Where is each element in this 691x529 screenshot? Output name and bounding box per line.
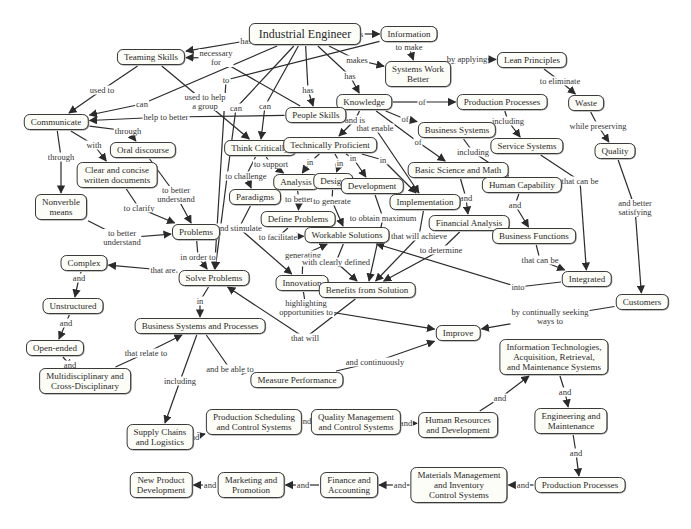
link-label: in [349, 154, 358, 163]
link-line-ie-people [306, 46, 308, 90]
link-label: and [516, 481, 530, 490]
concept-node-info[interactable]: Information [381, 26, 438, 42]
link-label: and [296, 481, 310, 490]
link-label: and [393, 481, 407, 490]
link-label: that relate to [124, 349, 168, 358]
link-label: used to [89, 86, 115, 95]
concept-node-engmaint[interactable]: Engineering and Maintenance [534, 408, 607, 434]
concept-node-supply[interactable]: Supply Chains and Logistics [127, 424, 194, 450]
link-label: used to help a group [183, 93, 226, 111]
link-label: and be able to [205, 365, 254, 374]
concept-node-paradigms[interactable]: Paradigms [229, 189, 281, 205]
link-label: to better understand [102, 229, 141, 247]
concept-node-swb[interactable]: Systems Work Better [385, 61, 451, 87]
link-label: to obtain maximum [349, 214, 418, 223]
link-label: to facilitate [258, 233, 298, 242]
link-arrow-ie-thinkcrit [261, 106, 265, 139]
link-label: in [306, 158, 315, 167]
concept-node-implementation[interactable]: Implementation [390, 194, 461, 210]
link-label: in [379, 156, 388, 165]
link-label: and [508, 201, 522, 210]
concept-node-bizsys[interactable]: Business Systems [418, 122, 496, 138]
link-label: has [301, 86, 314, 95]
concept-node-knowledge[interactable]: Knowledge [336, 94, 392, 110]
concept-node-marketing[interactable]: Marketing and Promotion [218, 472, 285, 498]
link-line-ie-solve [236, 46, 294, 108]
concept-node-openended[interactable]: Open-ended [26, 340, 84, 356]
concept-node-bizfunc[interactable]: Business Functions [492, 228, 576, 244]
concept-node-analysis[interactable]: Analysis [273, 174, 319, 190]
concept-node-development[interactable]: Development [341, 178, 404, 194]
link-label: to generate [312, 197, 352, 206]
link-label: to challenge [224, 172, 267, 181]
concept-node-problems[interactable]: Problems [172, 224, 220, 240]
concept-node-workable[interactable]: Workable Solutions [304, 227, 389, 243]
link-line-ie-thinkcrit [265, 46, 298, 106]
link-label: can [229, 104, 243, 113]
link-arrow-quality-customers [635, 208, 641, 293]
concept-node-clear[interactable]: Clear and concise written documents [77, 162, 158, 188]
concept-node-communicate[interactable]: Communicate [24, 114, 89, 130]
concept-node-customers[interactable]: Customers [616, 294, 669, 310]
link-label: to [222, 76, 231, 85]
link-label: that can be [521, 256, 560, 265]
link-label: and [569, 449, 583, 458]
concept-node-lean[interactable]: Lean Principles [497, 52, 567, 68]
concept-node-nonverbal[interactable]: Nonverble means [35, 194, 87, 220]
link-label: in [196, 297, 205, 306]
concept-node-defineprob[interactable]: Define Problems [261, 211, 336, 227]
link-label: of [400, 115, 409, 124]
link-label: in [336, 159, 345, 168]
concept-node-prodsched[interactable]: Production Scheduling and Control System… [206, 409, 302, 435]
concept-node-multi[interactable]: Multidisciplinary and Cross-Disciplinary [39, 368, 131, 394]
concept-node-improve[interactable]: Improve [436, 325, 481, 341]
concept-node-measure[interactable]: Measure Performance [250, 372, 343, 388]
link-label: to determine [419, 246, 464, 255]
concept-node-people[interactable]: People Skills [285, 107, 346, 123]
link-label: and [459, 194, 473, 203]
concept-node-ie[interactable]: Industrial Engineer [249, 23, 361, 45]
concept-node-complex[interactable]: Complex [61, 255, 108, 271]
link-label: of [413, 138, 422, 147]
link-label: to better [284, 195, 314, 204]
concept-node-infotech[interactable]: Information Technologies, Acquisition, R… [499, 339, 608, 375]
link-label: and better satisfying [617, 199, 653, 217]
link-label: and [399, 419, 413, 428]
link-label: and [493, 394, 507, 403]
link-label: with clearly defined [301, 258, 371, 267]
link-label: with [85, 141, 102, 150]
concept-node-humancap[interactable]: Human Capability [482, 177, 562, 193]
concept-node-integrated[interactable]: Integrated [562, 271, 612, 287]
link-label: into [510, 283, 525, 292]
concept-node-basicsci[interactable]: Basic Science and Math [408, 162, 509, 178]
link-label: to eliminate [539, 77, 581, 86]
concept-node-matmgmt[interactable]: Materials Management and Inventory Contr… [410, 467, 507, 503]
link-label: to clarify [123, 204, 156, 213]
link-label: that will achieve [390, 232, 448, 241]
concept-node-oral[interactable]: Oral discourse [110, 142, 176, 158]
link-label: that are [149, 266, 176, 275]
link-label: help to better [143, 113, 190, 122]
concept-node-unstructured[interactable]: Unstructured [43, 298, 104, 314]
concept-node-waste[interactable]: Waste [568, 95, 604, 111]
link-label: and [558, 388, 572, 397]
link-label: can [135, 100, 149, 109]
concept-node-qualmgmt[interactable]: Quality Management and Control Systems [311, 409, 401, 435]
concept-node-hrd[interactable]: Human Resources and Development [418, 412, 498, 438]
link-label: that enable [355, 124, 394, 133]
link-arrow-bsp-supply [165, 381, 180, 423]
concept-node-benefits[interactable]: Benefits from Solution [319, 282, 416, 298]
concept-node-prodproc2[interactable]: Production Processes [535, 477, 626, 493]
concept-node-quality[interactable]: Quality [595, 143, 636, 159]
concept-node-teaming[interactable]: Teaming Skills [117, 49, 185, 65]
concept-node-finance[interactable]: Finance and Accounting [320, 472, 378, 498]
concept-node-techprof[interactable]: Technically Proficient [283, 137, 377, 153]
link-label: makes [345, 56, 369, 65]
concept-node-service[interactable]: Service Systems [490, 138, 563, 154]
link-label: through [114, 127, 142, 136]
concept-node-solve[interactable]: Solve Problems [179, 270, 250, 286]
concept-node-newprod[interactable]: New Product Development [130, 472, 193, 498]
link-label: to better understand [156, 186, 195, 204]
concept-node-bsp[interactable]: Business Systems and Processes [135, 318, 266, 334]
concept-node-prodproc1[interactable]: Production Processes [457, 94, 548, 110]
